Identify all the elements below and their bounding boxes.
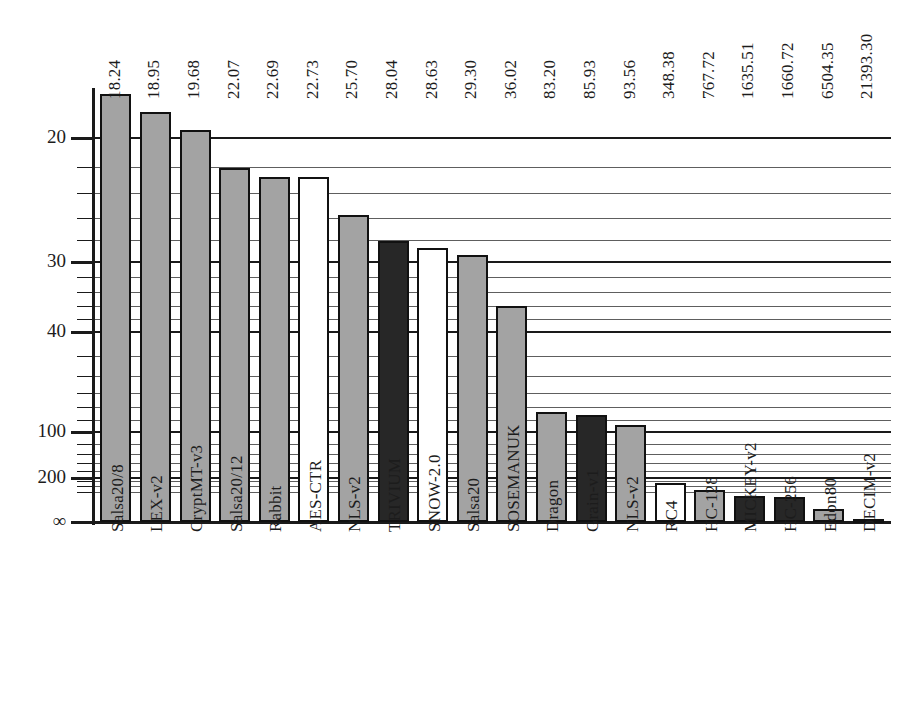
gridline-minor (93, 240, 891, 241)
tick-major (71, 521, 93, 524)
y-axis-tick-label: ∞ (0, 511, 66, 530)
tick-major (71, 137, 93, 140)
bar-lex-v2-1[interactable] (140, 112, 171, 522)
tick-minor (77, 167, 93, 168)
tick-minor (77, 407, 93, 408)
gridline-minor (93, 454, 891, 455)
tick-minor (77, 277, 93, 278)
bar-value-label: 25.70 (343, 60, 360, 99)
bar-value-label: 85.93 (581, 60, 598, 99)
tick-minor (77, 481, 93, 482)
bar-value-label: 36.02 (502, 60, 519, 99)
tick-minor (77, 193, 93, 194)
bar-value-label: 83.20 (541, 60, 558, 99)
bar-value-label: 22.73 (304, 60, 321, 99)
gridline-minor (93, 471, 891, 472)
tick-major (71, 477, 93, 480)
x-axis-category-label: CryptMT-v3 (188, 445, 205, 532)
x-axis-category-label: Salsa20/12 (228, 455, 245, 532)
tick-minor (77, 486, 93, 487)
tick-major (71, 431, 93, 434)
gridline-minor (93, 376, 891, 377)
bar-value-label: 18.24 (106, 60, 123, 99)
bar-value-label: 22.07 (225, 60, 242, 99)
tick-minor (77, 471, 93, 472)
x-axis-category-label: Dragon (544, 480, 561, 532)
bar-value-label: 28.63 (423, 60, 440, 99)
tick-minor (77, 306, 93, 307)
gridline-major (93, 477, 891, 480)
gridline-minor (93, 420, 891, 421)
x-axis-category-label: Grain-v1 (584, 469, 601, 532)
tick-minor (77, 444, 93, 445)
gridline-minor (93, 463, 891, 464)
x-axis-category-label: TRIVIUM (386, 458, 403, 532)
tick-minor (77, 292, 93, 293)
bar-value-label: 93.56 (621, 60, 638, 99)
gridline-minor (93, 218, 891, 219)
x-axis-category-label: AES-CTR (307, 460, 324, 532)
x-axis-category-label: DECIM-v2 (861, 453, 878, 532)
x-axis-category-label: Salsa20/8 (109, 464, 126, 532)
tick-minor (77, 319, 93, 320)
x-axis-category-label: NLS-v2 (346, 476, 363, 532)
x-axis-category-label: Salsa20 (465, 478, 482, 532)
x-axis-category-label: MICKEY-v2 (742, 442, 759, 532)
y-axis-tick-label: 20 (0, 127, 66, 146)
gridline-major (93, 331, 891, 334)
gridline-major (93, 261, 891, 264)
bar-chart: 203040100200∞ 18.2418.9519.6822.0722.692… (0, 0, 918, 708)
bar-rabbit-4[interactable] (259, 177, 290, 522)
bar-value-label: 18.95 (145, 60, 162, 99)
bar-value-label: 6504.35 (819, 42, 836, 99)
gridline-major (93, 431, 891, 434)
gridline-minor (93, 193, 891, 194)
gridline-major (93, 137, 891, 140)
tick-major (71, 331, 93, 334)
bar-value-label: 19.68 (185, 60, 202, 99)
tick-major (71, 261, 93, 264)
bar-salsa20-8-0[interactable] (100, 94, 131, 522)
tick-minor (77, 376, 93, 377)
gridline-minor (93, 319, 891, 320)
tick-minor (77, 218, 93, 219)
gridline-minor (93, 407, 891, 408)
y-axis-tick-label: 30 (0, 251, 66, 270)
gridline-minor (93, 292, 891, 293)
x-axis-category-label: Edon80 (822, 478, 839, 532)
gridline-minor (93, 481, 891, 482)
x-axis-category-label: Rabbit (267, 485, 284, 532)
bar-value-label: 29.30 (462, 60, 479, 99)
y-axis-line (92, 88, 95, 525)
x-axis-category-label: RC4 (663, 500, 680, 532)
gridline-minor (93, 167, 891, 168)
gridline-minor (93, 306, 891, 307)
bar-value-label: 348.38 (660, 51, 677, 99)
bar-value-label: 1635.51 (739, 42, 756, 99)
gridline-minor (93, 492, 891, 493)
x-axis-line (93, 521, 891, 524)
tick-minor (77, 393, 93, 394)
x-axis-category-label: LEX-v2 (148, 475, 165, 532)
y-axis-tick-label: 100 (0, 421, 66, 440)
y-axis-tick-label: 40 (0, 321, 66, 340)
tick-minor (77, 463, 93, 464)
x-axis-category-label: HC-256 (782, 476, 799, 532)
gridline-minor (93, 444, 891, 445)
gridline-minor (93, 277, 891, 278)
gridline-minor (93, 356, 891, 357)
gridline-minor (93, 393, 891, 394)
bar-value-label: 28.04 (383, 60, 400, 99)
bar-value-label: 767.72 (700, 51, 717, 99)
tick-minor (77, 492, 93, 493)
tick-minor (77, 454, 93, 455)
gridline-minor (93, 486, 891, 487)
bar-value-label: 21393.30 (858, 34, 875, 99)
tick-minor (77, 420, 93, 421)
bar-value-label: 1660.72 (779, 42, 796, 99)
y-axis-tick-label: 200 (0, 467, 66, 486)
tick-minor (77, 356, 93, 357)
x-axis-category-label: HC-128 (703, 476, 720, 532)
bar-value-label: 22.69 (264, 60, 281, 99)
x-axis-category-label: SOSEMANUK (505, 424, 522, 532)
